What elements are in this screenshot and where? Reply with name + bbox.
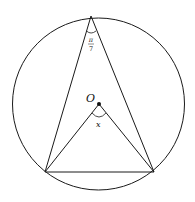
central-angle-label: x bbox=[96, 120, 101, 129]
center-label: O bbox=[86, 92, 95, 105]
central-angle-arc bbox=[92, 113, 106, 117]
radius-left bbox=[45, 104, 99, 172]
inscribed-angle-denominator: 7 bbox=[89, 45, 93, 53]
inscribed-angle-numerator: π bbox=[88, 36, 94, 44]
circle-diagram: π 7 O x bbox=[0, 0, 195, 202]
chord-right bbox=[91, 16, 154, 172]
inscribed-angle-arc bbox=[87, 31, 97, 33]
diagram-canvas: π 7 O x bbox=[0, 0, 195, 202]
center-point bbox=[97, 102, 101, 106]
radius-right bbox=[99, 104, 154, 172]
chord-left bbox=[45, 16, 91, 172]
